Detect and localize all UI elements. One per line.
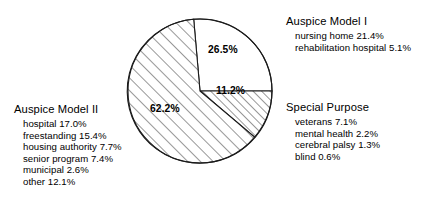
pie-slice-auspice-model-i	[194, 19, 272, 91]
legend-items-auspice-model-i: nursing home 21.4% rehabilitation hospit…	[286, 30, 411, 53]
slice-label-special-purpose: 11.2%	[216, 85, 245, 96]
legend-title-special-purpose: Special Purpose	[286, 101, 380, 114]
legend-item: senior program 7.4%	[23, 153, 122, 165]
legend-item: municipal 2.6%	[23, 164, 122, 176]
legend-item: mental health 2.2%	[295, 128, 380, 140]
legend-item: other 12.1%	[23, 176, 122, 188]
legend-item: hospital 17.0%	[23, 118, 122, 130]
legend-group-auspice-model-ii: Auspice Model II hospital 17.0% freestan…	[14, 103, 122, 188]
slice-label-auspice-model-i: 26.5%	[208, 44, 238, 55]
legend-group-auspice-model-i: Auspice Model I nursing home 21.4% rehab…	[286, 15, 411, 53]
legend-item: veterans 7.1%	[295, 116, 380, 128]
legend-title-auspice-model-ii: Auspice Model II	[14, 103, 122, 116]
slice-label-auspice-model-ii: 62.2%	[150, 103, 180, 114]
legend-items-auspice-model-ii: hospital 17.0% freestanding 15.4% housin…	[14, 118, 122, 188]
legend-item: rehabilitation hospital 5.1%	[295, 42, 411, 54]
legend-item: blind 0.6%	[295, 151, 380, 163]
legend-group-special-purpose: Special Purpose veterans 7.1% mental hea…	[286, 101, 380, 162]
legend-title-auspice-model-i: Auspice Model I	[286, 15, 411, 28]
legend-item: cerebral palsy 1.3%	[295, 139, 380, 151]
legend-item: freestanding 15.4%	[23, 130, 122, 142]
pie-chart-figure: 26.5% 11.2% 62.2% Auspice Model I nursin…	[0, 0, 428, 205]
legend-item: housing authority 7.7%	[23, 141, 122, 153]
legend-item: nursing home 21.4%	[295, 30, 411, 42]
legend-items-special-purpose: veterans 7.1% mental health 2.2% cerebra…	[286, 116, 380, 162]
